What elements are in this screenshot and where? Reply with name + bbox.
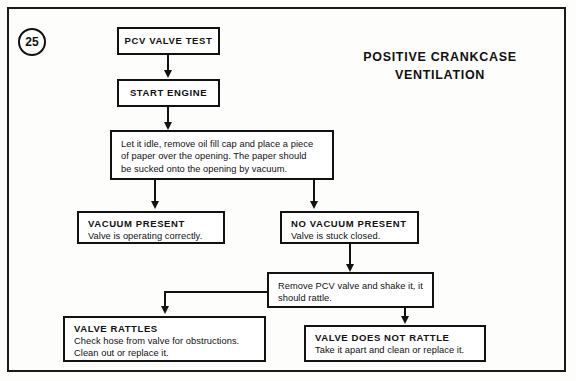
node-vacuum-present-body: Valve is operating correctly. — [88, 230, 223, 242]
node-vacuum-present: VACUUM PRESENT Valve is operating correc… — [77, 211, 225, 244]
node-pcv-valve-test-heading: PCV VALVE TEST — [125, 35, 213, 47]
node-valve-rattles-body-line-2: Clean out or replace it. — [74, 347, 264, 359]
node-valve-rattles-heading: VALVE RATTLES — [74, 323, 264, 335]
node-valve-rattles-body-line-1: Check hose from valve for obstructions. — [74, 335, 264, 347]
node-valve-does-not-rattle-heading: VALVE DOES NOT RATTLE — [315, 332, 484, 344]
flowchart-page: 25 POSITIVE CRANKCASE VENTILATION PCV VA… — [0, 0, 576, 381]
arrowhead-start-engine-to-instruction — [164, 122, 172, 130]
node-no-vacuum-present-body: Valve is stuck closed. — [291, 230, 417, 242]
node-remove-pcv-valve: Remove PCV valve and shake it, it should… — [267, 272, 434, 308]
arrowhead-remove-valve-to-rattles — [161, 306, 169, 314]
arrowhead-test-to-start-engine — [164, 70, 172, 78]
connector-instruction-to-no-vacuum-present — [313, 180, 315, 203]
page-title-line-2: VENTILATION — [330, 66, 550, 84]
node-start-engine-heading: START ENGINE — [130, 87, 207, 99]
node-valve-rattles: VALVE RATTLES Check hose from valve for … — [63, 316, 266, 362]
node-idle-instruction-line-3: be sucked onto the opening by vacuum. — [121, 163, 324, 175]
arrowhead-no-vacuum-to-remove-valve — [346, 264, 354, 272]
page-title: POSITIVE CRANKCASE VENTILATION — [330, 48, 550, 84]
connector-no-vacuum-to-remove-valve — [349, 244, 351, 266]
node-remove-pcv-valve-line-1: Remove PCV valve and shake it, it — [278, 280, 424, 292]
connector-instruction-to-vacuum-present — [154, 180, 156, 203]
arrowhead-remove-valve-to-not-rattle — [401, 316, 409, 324]
node-valve-does-not-rattle-body: Take it apart and clean or replace it. — [315, 344, 484, 356]
arrowhead-instruction-to-vacuum-present — [151, 201, 159, 209]
arrowhead-instruction-to-no-vacuum-present — [310, 201, 318, 209]
node-idle-instruction-line-1: Let it idle, remove oil fill cap and pla… — [121, 138, 324, 150]
node-vacuum-present-heading: VACUUM PRESENT — [88, 218, 223, 230]
connector-start-engine-to-instruction — [167, 107, 169, 123]
figure-number-badge: 25 — [18, 28, 46, 56]
node-no-vacuum-present: NO VACUUM PRESENT Valve is stuck closed. — [280, 211, 419, 244]
node-idle-instruction-line-2: of paper over the opening. The paper sho… — [121, 150, 324, 162]
connector-remove-valve-to-rattles-horizontal — [164, 291, 269, 293]
figure-number-text: 25 — [25, 36, 38, 48]
node-remove-pcv-valve-line-2: should rattle. — [278, 292, 424, 304]
node-valve-does-not-rattle: VALVE DOES NOT RATTLE Take it apart and … — [304, 325, 486, 362]
node-idle-instruction: Let it idle, remove oil fill cap and pla… — [110, 130, 334, 180]
node-pcv-valve-test: PCV VALVE TEST — [117, 27, 220, 55]
node-start-engine: START ENGINE — [117, 79, 220, 107]
node-no-vacuum-present-heading: NO VACUUM PRESENT — [291, 218, 417, 230]
page-title-line-1: POSITIVE CRANKCASE — [330, 48, 550, 66]
